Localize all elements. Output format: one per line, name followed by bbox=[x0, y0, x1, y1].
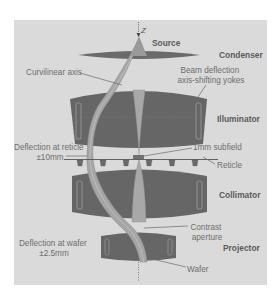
label-wafer: Wafer bbox=[187, 265, 209, 274]
label-condenser: Condenser bbox=[219, 50, 263, 60]
electron-projection-diagram: Z Source Condenser Illuminator Collimato… bbox=[0, 0, 280, 300]
label-curvilinear-axis: Curvilinear axis bbox=[26, 68, 82, 77]
label-subfield: 1mm subfield bbox=[193, 143, 242, 152]
label-collimator: Collimator bbox=[219, 190, 261, 200]
label-beam-deflection: Beam deflection axis-shifting yokes bbox=[178, 66, 245, 85]
label-reticle: Reticle bbox=[217, 161, 242, 170]
subfield-marker bbox=[133, 155, 144, 159]
label-projector: Projector bbox=[223, 243, 261, 253]
label-illuminator: Illuminator bbox=[217, 114, 261, 124]
label-source: Source bbox=[152, 38, 181, 48]
label-contrast-aperture: Contrast aperture bbox=[190, 223, 223, 242]
